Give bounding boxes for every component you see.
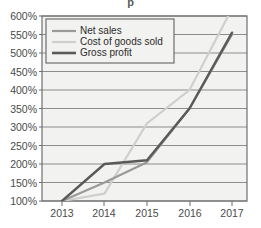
ytick-label-300: 300% [10,121,37,133]
ytick-label-600: 600% [10,10,37,22]
xtick-label-2017: 2017 [220,207,244,219]
ytick-label-250: 250% [10,140,37,152]
ytick-label-150: 150% [10,177,37,189]
ytick-label-350: 350% [10,103,37,115]
legend-label-cost-of-goods-sold: Cost of goods sold [80,36,163,47]
xtick-label-2016: 2016 [178,207,202,219]
ytick-label-100: 100% [10,195,37,207]
axis-labels-y: 600% 550% 500% 450% 400% 350% 300% 250% … [10,10,37,207]
axis-labels-x: 2013 2014 2015 2016 2017 [50,207,244,219]
ytick-label-550: 550% [10,29,37,41]
line-chart: p [0,0,261,228]
xtick-label-2015: 2015 [135,207,159,219]
ytick-label-500: 500% [10,47,37,59]
legend-label-gross-profit: Gross profit [80,47,132,58]
legend: Net sales Cost of goods sold Gross profi… [46,19,174,63]
ytick-label-400: 400% [10,84,37,96]
cropped-chart-title: p [0,0,261,8]
ytick-label-200: 200% [10,158,37,170]
legend-label-net-sales: Net sales [80,25,122,36]
chart-svg: 600% 550% 500% 450% 400% 350% 300% 250% … [0,0,261,228]
axis-ticks-x [62,201,232,206]
xtick-label-2014: 2014 [92,207,116,219]
ytick-label-450: 450% [10,66,37,78]
xtick-label-2013: 2013 [50,207,74,219]
